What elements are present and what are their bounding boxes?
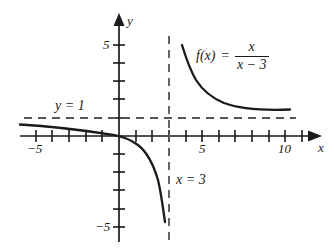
x-axis-label: x [318,141,324,154]
formula-function-name: f(x) [196,48,215,64]
x-tick-label-10: 10 [278,142,291,155]
graph-canvas [0,0,334,249]
function-graph-figure: y x −5 5 10 5 −5 y = 1 x = 3 f(x) = x x … [0,0,334,249]
curve-left-branch [20,125,165,223]
formula-fraction: x x − 3 [235,40,269,73]
horizontal-asymptote-label: y = 1 [55,99,85,113]
vertical-asymptote-label: x = 3 [176,173,206,187]
formula-equals-sign: = [220,48,229,64]
function-formula: f(x) = x x − 3 [196,40,269,73]
y-axis-arrow [114,13,125,26]
x-tick-label-5: 5 [199,142,206,155]
y-axis [114,13,125,242]
x-axis [20,131,322,142]
formula-denominator: x − 3 [235,57,269,73]
formula-numerator: x [243,40,261,56]
y-axis-label: y [127,14,133,27]
y-tick-label-neg5: −5 [95,220,110,233]
y-tick-label-5: 5 [103,38,110,51]
x-tick-label-neg5: −5 [27,142,42,155]
